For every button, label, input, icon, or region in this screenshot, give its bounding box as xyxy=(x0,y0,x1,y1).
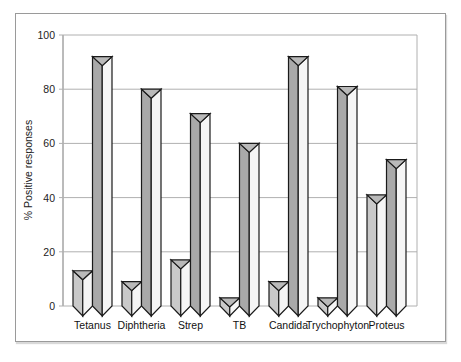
x-category-label: Candida xyxy=(269,319,308,331)
bar-series2-trychophyton xyxy=(338,86,358,316)
bar-series1-trychophyton xyxy=(318,298,338,316)
x-category-label: Tetanus xyxy=(74,319,111,331)
x-category-label: Proteus xyxy=(368,319,404,331)
bar-series1-tetanus xyxy=(73,271,93,316)
y-tick-label: 0 xyxy=(49,300,55,312)
bar-series1-proteus xyxy=(367,195,387,316)
bar-series2-diphtheria xyxy=(142,89,162,316)
bar-series2-proteus xyxy=(387,160,407,316)
x-category-label: Diphtheria xyxy=(118,319,166,331)
bar-series1-diphtheria xyxy=(122,282,142,316)
y-tick-label: 20 xyxy=(43,246,55,258)
x-category-label: Trychophyton xyxy=(306,319,369,331)
x-category-label: Strep xyxy=(178,319,203,331)
y-tick-label: 40 xyxy=(43,192,55,204)
bar-chart: 020406080100TetanusDiphtheriaStrepTBCand… xyxy=(0,0,461,362)
bar-series1-strep xyxy=(171,260,191,316)
bar-series1-candida xyxy=(269,282,289,316)
y-tick-label: 80 xyxy=(43,83,55,95)
bar-series2-tb xyxy=(240,143,260,316)
bar-series1-tb xyxy=(220,298,240,316)
y-tick-label: 100 xyxy=(37,29,55,41)
x-category-label: TB xyxy=(233,319,246,331)
bar-series2-strep xyxy=(191,114,211,316)
bar-series2-tetanus xyxy=(93,57,113,316)
bar-series2-candida xyxy=(289,57,309,316)
y-tick-label: 60 xyxy=(43,137,55,149)
